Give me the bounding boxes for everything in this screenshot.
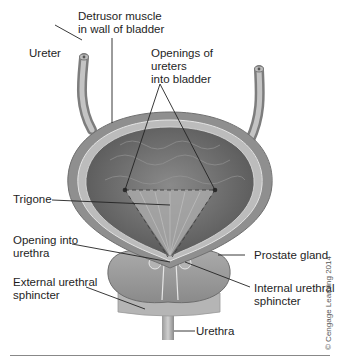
label-prostate-gland: Prostate gland bbox=[254, 249, 328, 262]
bottom-rule bbox=[10, 355, 330, 356]
copyright-credit: © Cengage Learning 2014 bbox=[324, 256, 333, 350]
label-ureter: Ureter bbox=[29, 47, 61, 60]
label-openings-of-ureters: Openings of ureters into bladder bbox=[151, 47, 213, 86]
bladder-diagram: Detrusor muscle in wall of bladder Urete… bbox=[0, 0, 340, 362]
right-ureter bbox=[250, 66, 264, 140]
label-trigone: Trigone bbox=[13, 193, 52, 206]
label-external-urethral-sphincter: External urethral sphincter bbox=[13, 276, 97, 302]
label-detrusor-muscle: Detrusor muscle in wall of bladder bbox=[78, 10, 164, 36]
label-internal-urethral-sphincter: Internal urethral sphincter bbox=[254, 282, 335, 308]
label-urethra: Urethra bbox=[196, 325, 234, 338]
left-ureter bbox=[80, 54, 93, 130]
label-opening-into-urethra: Opening into urethra bbox=[13, 234, 78, 260]
